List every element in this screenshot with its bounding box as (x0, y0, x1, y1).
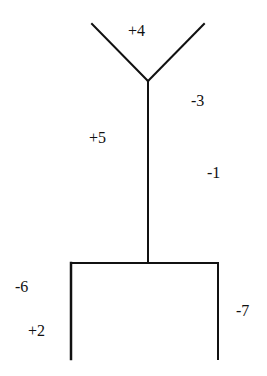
label-lower-left-inner: +2 (28, 323, 45, 339)
label-lower-left-outer: -6 (15, 279, 28, 295)
label-stem-right: -1 (207, 165, 220, 181)
tree-diagram: +4 -3 +5 -1 -6 +2 -7 (0, 0, 267, 376)
v-right-arm (148, 24, 204, 81)
label-top: +4 (128, 23, 145, 39)
tree-lines (0, 0, 267, 376)
label-stem-left: +5 (89, 130, 106, 146)
label-lower-right: -7 (236, 303, 249, 319)
label-upper-right: -3 (191, 93, 204, 109)
